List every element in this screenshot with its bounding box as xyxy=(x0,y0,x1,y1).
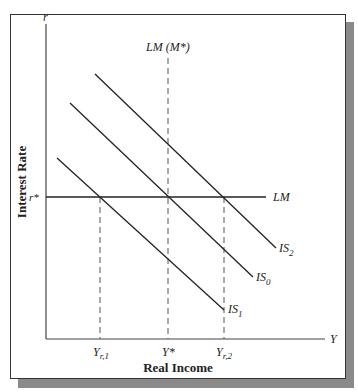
tick-yr1: Yr,1 xyxy=(93,345,109,361)
is1-curve xyxy=(57,158,224,310)
lm-label: LM xyxy=(272,190,291,204)
tick-yr2: Yr,2 xyxy=(216,345,232,361)
x-axis-symbol: Y xyxy=(330,332,338,346)
tick-y-star: Y* xyxy=(162,345,175,359)
r-star-label: r* xyxy=(29,191,39,203)
islm-diagram: r Y r* LM LM (M*) IS2 IS0 IS1 Yr,1 Y* Yr… xyxy=(0,0,358,392)
is0-curve xyxy=(70,103,253,277)
is1-label: IS1 xyxy=(227,302,243,319)
y-axis-title: Interest Rate xyxy=(14,146,29,219)
y-axis-symbol: r xyxy=(43,10,48,24)
is2-label: IS2 xyxy=(278,241,294,258)
is2-curve xyxy=(95,74,276,248)
lm-m-star-label: LM (M*) xyxy=(145,40,190,54)
x-axis-title: Real Income xyxy=(143,360,213,375)
is0-label: IS0 xyxy=(255,270,271,287)
